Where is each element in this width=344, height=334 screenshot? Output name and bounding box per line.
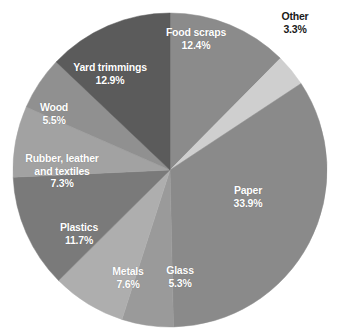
pie-slice-group: [13, 13, 327, 327]
pie-chart: Food scraps 12.4% Other 3.3% Paper 33.9%…: [0, 0, 344, 334]
pie-chart-canvas: [0, 0, 344, 334]
